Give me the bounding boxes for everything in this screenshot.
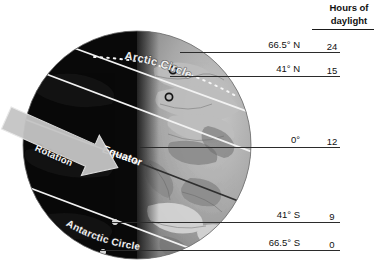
globe-svg: Arctic Circle Antarctic Circle Equator (22, 30, 252, 260)
hours-of-daylight-header: Hours of daylight (310, 2, 388, 27)
diagram-canvas: Arctic Circle Antarctic Circle Equator R… (0, 0, 391, 280)
hours-value-66s: 0 (312, 239, 352, 250)
hours-value-41s: 9 (312, 211, 352, 222)
latitude-label-66n: 66.5° N (268, 39, 300, 50)
latitude-label-66s: 66.5° S (269, 237, 300, 248)
globe: Arctic Circle Antarctic Circle Equator R… (22, 30, 252, 260)
hours-value-equator: 12 (312, 136, 352, 147)
header-line-2: daylight (310, 15, 388, 28)
header-line-1: Hours of (310, 2, 388, 15)
leader-line-41s (112, 222, 340, 223)
header-underline (312, 29, 374, 30)
leader-line-66n (180, 52, 340, 53)
latitude-label-41n: 41° N (276, 63, 300, 74)
latitude-label-equator: 0° (291, 134, 300, 145)
leader-line-41n (170, 76, 340, 77)
hours-value-66n: 24 (312, 41, 352, 52)
leader-line-equator (140, 147, 340, 148)
latitude-label-41s: 41° S (277, 209, 300, 220)
leader-line-66s (100, 250, 340, 251)
hours-value-41n: 15 (312, 65, 352, 76)
